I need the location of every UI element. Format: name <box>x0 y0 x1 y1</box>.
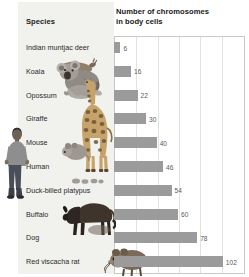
bar-row-mouse: 40 <box>114 131 245 155</box>
platypus-illustration <box>70 176 104 186</box>
bar-duck-billed-platypus <box>114 185 172 196</box>
bar-series: 6 16 22 30 40 46 54 60 <box>114 36 245 274</box>
bar-row-red-viscacha-rat: 102 <box>114 250 245 274</box>
bar-row-koala: 16 <box>114 60 245 84</box>
chromosome-count-figure: Species Number of chromosomes in body ce… <box>0 0 249 277</box>
bar-value-duck-billed-platypus: 54 <box>175 185 182 196</box>
bar-row-opossum: 22 <box>114 84 245 108</box>
bar-value-mouse: 40 <box>160 138 167 149</box>
bar-koala <box>114 66 131 77</box>
bar-value-dog: 78 <box>200 233 207 244</box>
bar-human <box>114 161 163 172</box>
bar-value-opossum: 22 <box>141 90 148 101</box>
bar-value-human: 46 <box>166 162 173 173</box>
bar-row-indian-muntjac-deer: 6 <box>114 36 245 60</box>
species-column-header: Species <box>26 17 55 26</box>
mouse-illustration <box>62 139 90 161</box>
bar-buffalo <box>114 209 178 220</box>
chart-title-line2: in body cells <box>116 17 244 27</box>
bar-row-dog: 78 <box>114 226 245 250</box>
bar-red-viscacha-rat <box>114 256 223 267</box>
chart-title: Number of chromosomes in body cells <box>116 7 244 28</box>
bar-row-giraffe: 30 <box>114 107 245 131</box>
bar-opossum <box>114 90 138 101</box>
bar-indian-muntjac-deer <box>114 42 120 53</box>
human-illustration <box>4 126 30 200</box>
species-label-koala: Koala <box>26 60 44 84</box>
species-label-dog: Dog <box>26 226 39 250</box>
bar-giraffe <box>114 113 146 124</box>
bar-mouse <box>114 137 157 148</box>
bar-row-duck-billed-platypus: 54 <box>114 179 245 203</box>
bar-dog <box>114 232 197 243</box>
bar-value-koala: 16 <box>134 66 141 77</box>
species-label-red-viscacha-rat: Red viscacha rat <box>26 250 80 274</box>
species-label-opossum: Opossum <box>26 84 57 108</box>
dog-illustration <box>86 222 112 236</box>
bar-value-indian-muntjac-deer: 6 <box>123 43 127 54</box>
bar-value-giraffe: 30 <box>149 114 156 125</box>
bar-row-buffalo: 60 <box>114 203 245 227</box>
species-label-buffalo: Buffalo <box>26 203 48 227</box>
bar-value-red-viscacha-rat: 102 <box>226 257 237 268</box>
bar-value-buffalo: 60 <box>181 209 188 220</box>
bar-row-human: 46 <box>114 155 245 179</box>
chart-title-line1: Number of chromosomes <box>116 7 244 17</box>
